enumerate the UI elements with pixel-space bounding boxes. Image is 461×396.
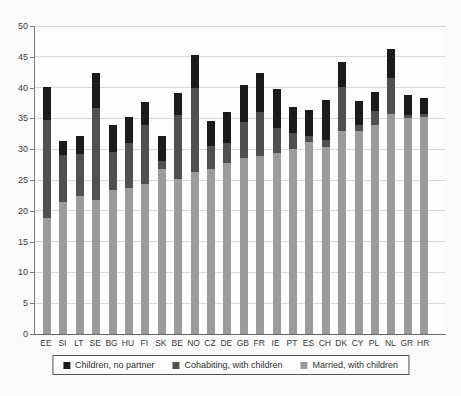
bar-HU-cohabiting <box>125 143 133 188</box>
x-axis-label-HR: HR <box>413 338 433 348</box>
bar-FI-children <box>141 102 149 124</box>
bar-HU <box>125 117 133 334</box>
bar-EE <box>43 87 51 334</box>
bar-GB-cohabiting <box>240 122 248 158</box>
bar-IE-married <box>273 153 281 334</box>
legend-item-cohabiting: Cohabiting, with children <box>172 360 282 370</box>
bar-DK-cohabiting <box>338 87 346 131</box>
bar-ES <box>305 110 313 334</box>
bar-BG <box>109 125 117 334</box>
bar-CZ-married <box>207 169 215 334</box>
bar-PT-cohabiting <box>289 133 297 150</box>
bar-NO-married <box>191 172 199 334</box>
bar-HR-cohabiting <box>420 114 428 117</box>
bar-BE-children <box>174 93 182 115</box>
bar-HU-children <box>125 117 133 143</box>
bar-PT-children <box>289 107 297 132</box>
y-axis-label-0: 0 <box>2 329 28 339</box>
y-axis-tick <box>30 242 34 243</box>
legend-item-married: Married, with children <box>301 360 399 370</box>
bar-GR-married <box>404 118 412 334</box>
bar-PL-children <box>371 92 379 111</box>
plot-area <box>34 26 446 335</box>
y-axis-tick <box>30 211 34 212</box>
bar-CZ-cohabiting <box>207 146 215 169</box>
bar-CH-cohabiting <box>322 140 330 147</box>
bar-NL <box>387 49 395 334</box>
bar-FR-married <box>256 156 264 334</box>
legend-swatch-married <box>301 362 308 369</box>
bar-SI-children <box>59 141 67 155</box>
bar-ES-cohabiting <box>305 136 313 142</box>
bar-GR <box>404 95 412 334</box>
y-axis-label-10: 10 <box>2 267 28 277</box>
y-axis-label-15: 15 <box>2 237 28 247</box>
y-axis-tick <box>30 118 34 119</box>
bar-GB-children <box>240 85 248 123</box>
bar-SK <box>158 136 166 334</box>
y-axis-label-40: 40 <box>2 83 28 93</box>
bar-BE-cohabiting <box>174 115 182 179</box>
bar-EE-children <box>43 87 51 120</box>
gridline-50 <box>35 26 446 27</box>
bar-CH <box>322 100 330 334</box>
bar-FR-children <box>256 73 264 111</box>
legend-item-children-no-partner: Children, no partner <box>63 360 155 370</box>
bar-SK-children <box>158 136 166 161</box>
legend-swatch-cohabiting <box>172 362 179 369</box>
bar-BG-married <box>109 190 117 334</box>
bar-DK <box>338 62 346 334</box>
legend-label-children-no-partner: Children, no partner <box>75 360 155 370</box>
bar-BG-cohabiting <box>109 152 117 190</box>
y-axis-tick <box>30 303 34 304</box>
legend-swatch-children-no-partner <box>63 362 70 369</box>
bar-LT <box>76 136 84 334</box>
bar-FR-cohabiting <box>256 112 264 156</box>
bar-HR-married <box>420 117 428 334</box>
bar-PL <box>371 92 379 334</box>
y-axis-label-35: 35 <box>2 113 28 123</box>
bar-SK-cohabiting <box>158 161 166 169</box>
bar-NO-cohabiting <box>191 88 199 172</box>
bar-GR-cohabiting <box>404 115 412 118</box>
bar-LT-cohabiting <box>76 154 84 197</box>
y-axis-tick <box>30 26 34 27</box>
bar-GB <box>240 85 248 334</box>
bar-DE-cohabiting <box>223 143 231 163</box>
bar-SI-married <box>59 202 67 334</box>
bar-CZ-children <box>207 121 215 146</box>
bar-CY-married <box>355 131 363 334</box>
bar-CH-children <box>322 100 330 140</box>
bar-DE-married <box>223 163 231 334</box>
bar-IE-cohabiting <box>273 128 281 153</box>
y-axis-label-30: 30 <box>2 144 28 154</box>
bar-CY-children <box>355 101 363 124</box>
bar-DE-children <box>223 112 231 143</box>
bar-HR <box>420 98 428 334</box>
y-axis-label-45: 45 <box>2 52 28 62</box>
bar-FI-cohabiting <box>141 125 149 185</box>
bar-SE-children <box>92 73 100 107</box>
bar-SI-cohabiting <box>59 155 67 202</box>
bar-DK-children <box>338 62 346 87</box>
bar-SK-married <box>158 169 166 334</box>
bar-CY <box>355 101 363 334</box>
y-axis-label-50: 50 <box>2 21 28 31</box>
y-axis-tick <box>30 57 34 58</box>
bar-ES-children <box>305 110 313 135</box>
bar-PT-married <box>289 149 297 334</box>
bar-IE <box>273 89 281 334</box>
bar-FR <box>256 73 264 334</box>
legend-label-cohabiting: Cohabiting, with children <box>184 360 282 370</box>
gridline-45 <box>35 56 446 57</box>
bar-NL-married <box>387 114 395 334</box>
bar-CZ <box>207 121 215 334</box>
bar-BE-married <box>174 179 182 334</box>
bar-ES-married <box>305 142 313 334</box>
y-axis-tick <box>30 149 34 150</box>
bar-GR-children <box>404 95 412 115</box>
legend-box: Children, no partner Cohabiting, with ch… <box>52 355 409 375</box>
legend-label-married: Married, with children <box>313 360 399 370</box>
bar-PL-cohabiting <box>371 111 379 125</box>
stacked-bar-chart: 05101520253035404550 EESILTSEBGHUFISKBEN… <box>0 0 461 396</box>
